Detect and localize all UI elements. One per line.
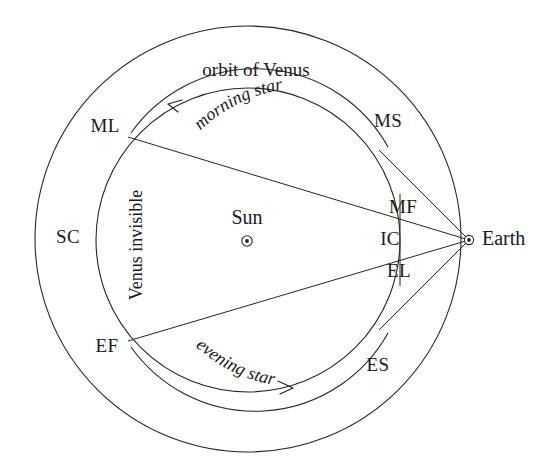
point-label-ml: ML [90,115,119,136]
evening-star-label-text: evening star [193,334,278,389]
point-label-ef: EF [96,335,119,356]
svg-text:evening star: evening star [193,334,278,389]
earth-label: Earth [482,227,525,249]
morning-star-label-text: morning star [190,74,285,134]
earth-marker [464,235,473,244]
morning-star-arrow-icon [168,100,182,112]
sun-dot-icon [245,239,249,243]
orbit-title-label: orbit of Venus [202,59,309,80]
sun-label: Sun [231,206,262,228]
diagram-canvas: orbit of Venus morning star evening star… [0,0,553,467]
point-label-ic: IC [380,228,400,249]
point-label-ms: MS [374,110,402,131]
point-label-sc: SC [56,226,80,247]
venus-invisible-label: Venus invisible [126,190,146,301]
svg-text:morning star: morning star [190,74,285,134]
earth-dot-icon [467,238,471,242]
sun-marker [242,236,252,246]
point-label-mf: MF [389,196,417,217]
point-label-es: ES [367,354,390,375]
morning-star-label: morning star [190,74,356,134]
venus-orbit-diagram: orbit of Venus morning star evening star… [0,0,553,467]
point-label-el: EL [387,260,411,281]
evening-star-label: evening star [193,334,350,389]
